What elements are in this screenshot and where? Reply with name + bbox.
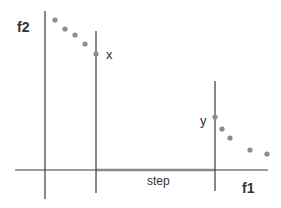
data-point bbox=[227, 135, 232, 140]
data-point bbox=[212, 114, 217, 119]
data-point bbox=[247, 147, 252, 152]
diagram-canvas: f2 x y step f1 bbox=[0, 0, 281, 208]
f2-label: f2 bbox=[17, 20, 29, 34]
y-label: y bbox=[200, 114, 207, 127]
diagram-svg bbox=[0, 0, 281, 208]
data-point bbox=[93, 51, 98, 56]
data-point bbox=[72, 32, 77, 37]
data-point bbox=[62, 26, 67, 31]
data-point bbox=[52, 17, 57, 22]
step-label: step bbox=[147, 175, 170, 187]
x-label: x bbox=[106, 48, 113, 61]
data-point bbox=[219, 126, 224, 131]
data-point bbox=[82, 41, 87, 46]
f1-label: f1 bbox=[242, 181, 254, 195]
pareto-points bbox=[52, 17, 269, 156]
data-point bbox=[264, 151, 269, 156]
